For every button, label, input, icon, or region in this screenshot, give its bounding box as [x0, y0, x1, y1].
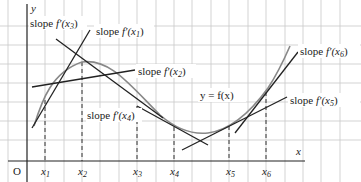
point-labels: x1 x2 x3 x4 x5 x6 [40, 165, 271, 179]
label-x3: x3 [132, 165, 142, 179]
origin-label: O [13, 165, 21, 177]
label-x5: x5 [225, 165, 235, 179]
tangent-x2 [32, 70, 135, 87]
y-axis-label: y [30, 2, 36, 14]
curve-label: y = f(x) [200, 89, 234, 102]
tangent-x4 [137, 106, 208, 145]
x-axis-label: x [295, 145, 301, 157]
label-x1: x1 [40, 165, 50, 179]
label-x6: x6 [261, 165, 271, 179]
tangent-x3 [56, 39, 163, 118]
label-x4: x4 [169, 165, 179, 179]
tangent-diagram: y x O x1 x2 x3 x4 x5 x6 y = f(x) slope f… [0, 0, 361, 182]
slope-labels: slope f′(x3) slope f′(x1) slope f′(x2) s… [29, 16, 360, 123]
label-x2: x2 [77, 165, 87, 179]
tangent-lines [32, 30, 298, 150]
tangent-x5 [182, 97, 287, 150]
